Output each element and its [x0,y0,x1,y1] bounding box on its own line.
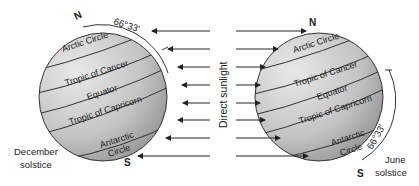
june-caption-1: June [385,154,406,165]
december-caption-2: solstice [20,159,52,170]
north-label: N [72,9,83,22]
direct-sunlight-label: Direct sunlight [217,61,229,128]
south-label: S [124,157,131,168]
north-label: N [309,17,316,28]
december-caption-1: December [14,146,58,157]
june-caption-2: solstice [375,167,407,178]
angle-label: 66°33' [112,15,141,34]
south-label: S [357,168,364,179]
solstice-diagram: Direct sunlight N 66°33' Arctic Circle T… [0,0,419,186]
